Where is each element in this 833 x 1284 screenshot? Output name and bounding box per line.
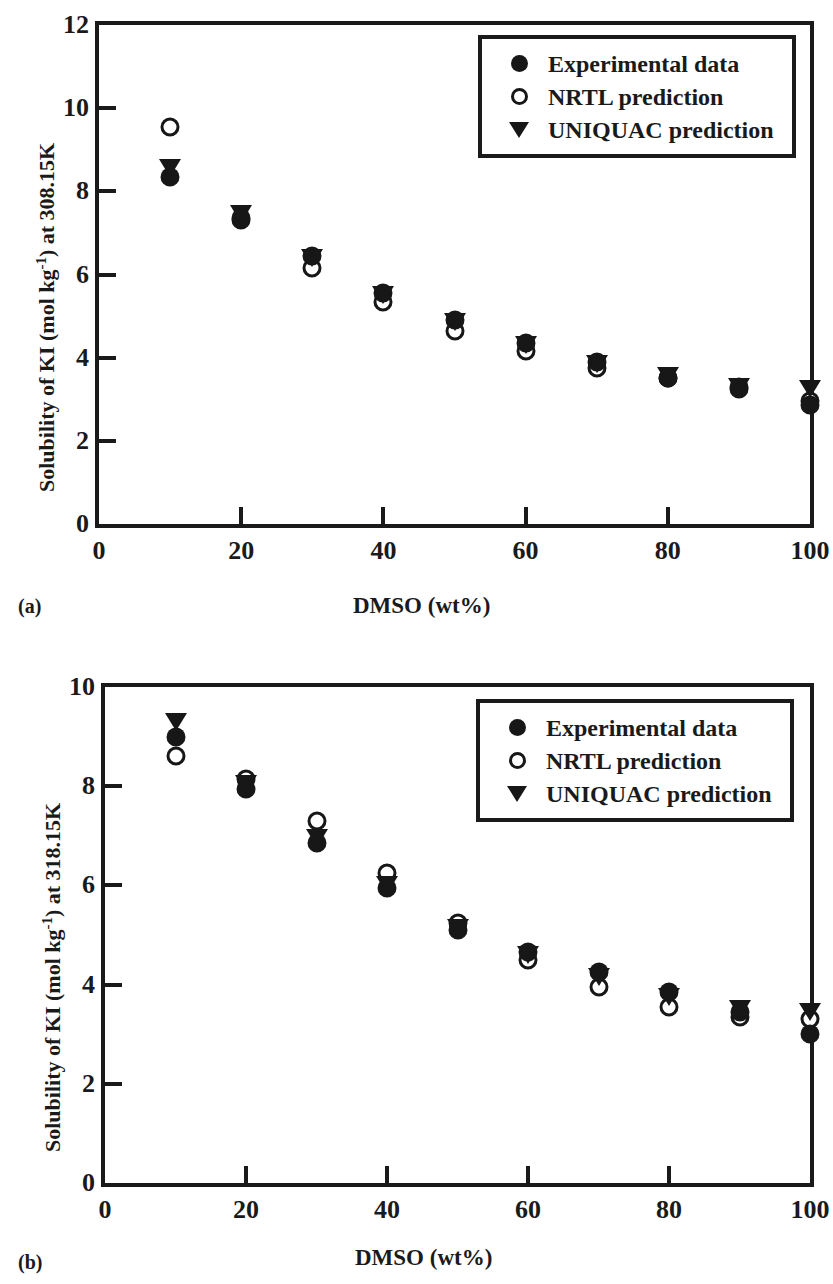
y-tick-mark	[99, 356, 116, 360]
y-tick-mark	[99, 189, 116, 193]
y-axis-title-b: Solubility of KI (mol kg-1) at 318.15K	[40, 803, 64, 1152]
y-tick-mark	[105, 784, 122, 788]
x-tick-label: 20	[228, 538, 254, 564]
y-tick-mark	[105, 1082, 122, 1086]
x-axis-title-b: DMSO (wt%)	[355, 1246, 492, 1269]
data-point-nrtl	[161, 117, 180, 136]
panel-label-b: (b)	[18, 1252, 42, 1272]
data-point-uniquac	[447, 919, 469, 937]
y-tick-mark	[99, 106, 116, 110]
y-axis-title-b-superscript: -1	[39, 917, 55, 929]
x-tick-label: 40	[370, 538, 396, 564]
legend-item: Experimental data	[494, 711, 772, 744]
y-axis-title-b-prefix: Solubility of KI (mol kg	[40, 930, 65, 1152]
legend-item: Experimental data	[496, 47, 774, 80]
x-tick-mark	[239, 507, 243, 524]
x-tick-mark	[524, 507, 528, 524]
x-tick-mark	[385, 1166, 389, 1183]
data-point-uniquac	[588, 968, 610, 986]
legend-item: UNIQUAC prediction	[496, 113, 774, 146]
x-tick-label: 80	[656, 1197, 682, 1223]
data-point-uniquac	[301, 249, 323, 267]
y-tick-label: 4	[76, 345, 89, 371]
y-tick-label: 2	[82, 1071, 95, 1097]
plot-frame-a: 024681012020406080100 Experimental data …	[95, 21, 814, 528]
y-tick-label: 0	[82, 1170, 95, 1196]
y-tick-label: 0	[76, 511, 89, 537]
legend-b: Experimental data NRTL prediction UNIQUA…	[476, 699, 794, 822]
x-tick-label: 60	[513, 538, 539, 564]
legend-item-label: NRTL prediction	[540, 749, 721, 773]
y-tick-mark	[105, 983, 122, 987]
x-tick-mark	[244, 1166, 248, 1183]
data-point-uniquac	[235, 775, 257, 793]
open-circle-icon	[494, 752, 540, 769]
y-tick-label: 4	[82, 972, 95, 998]
y-axis-title-a-suffix: ) at 308.15K	[34, 143, 59, 257]
plot-frame-b: 0246810020406080100 Experimental data NR…	[101, 683, 814, 1187]
x-axis-title-a: DMSO (wt%)	[353, 594, 490, 617]
y-tick-label: 2	[76, 428, 89, 454]
y-axis-title-b-suffix: ) at 318.15K	[40, 803, 65, 917]
triangle-down-icon	[494, 786, 540, 802]
data-point-uniquac	[657, 367, 679, 385]
data-point-nrtl	[307, 811, 326, 830]
legend-item-label: Experimental data	[542, 52, 739, 76]
data-point-uniquac	[799, 380, 821, 398]
y-tick-label: 6	[82, 872, 95, 898]
data-point-uniquac	[517, 946, 539, 964]
x-tick-mark	[666, 507, 670, 524]
data-point-uniquac	[230, 205, 252, 223]
x-tick-label: 0	[93, 538, 106, 564]
data-point-uniquac	[165, 713, 187, 731]
data-point-experimental	[801, 1025, 820, 1044]
figure-panel-b: Solubility of KI (mol kg-1) at 318.15K 0…	[0, 640, 833, 1284]
y-tick-label: 8	[76, 178, 89, 204]
x-tick-label: 40	[374, 1197, 400, 1223]
data-point-uniquac	[586, 355, 608, 373]
x-tick-label: 0	[99, 1197, 112, 1223]
data-point-uniquac	[799, 1003, 821, 1021]
data-point-uniquac	[728, 378, 750, 396]
legend-item: NRTL prediction	[496, 80, 774, 113]
x-tick-label: 60	[515, 1197, 541, 1223]
data-point-uniquac	[444, 313, 466, 331]
data-point-uniquac	[729, 1000, 751, 1018]
x-tick-label: 100	[791, 1197, 830, 1223]
filled-circle-icon	[496, 55, 542, 72]
y-tick-label: 10	[63, 95, 89, 121]
legend-item-label: Experimental data	[540, 716, 737, 740]
x-tick-mark	[526, 1166, 530, 1183]
data-point-uniquac	[159, 159, 181, 177]
data-point-uniquac	[376, 876, 398, 894]
legend-item: NRTL prediction	[494, 744, 772, 777]
x-tick-mark	[667, 1166, 671, 1183]
y-tick-mark	[99, 273, 116, 277]
x-tick-mark	[381, 507, 385, 524]
x-tick-label: 80	[655, 538, 681, 564]
legend-item-label: UNIQUAC prediction	[542, 118, 774, 142]
data-point-nrtl	[166, 747, 185, 766]
triangle-down-icon	[496, 122, 542, 138]
y-tick-mark	[99, 439, 116, 443]
data-point-uniquac	[658, 988, 680, 1006]
figure-panel-a: Solubility of KI (mol kg-1) at 308.15K 0…	[0, 0, 833, 640]
y-tick-label: 12	[63, 12, 89, 38]
y-tick-label: 8	[82, 773, 95, 799]
y-tick-label: 6	[76, 262, 89, 288]
data-point-experimental	[801, 396, 820, 415]
y-tick-mark	[105, 883, 122, 887]
legend-a: Experimental data NRTL prediction UNIQUA…	[478, 35, 796, 158]
legend-item-label: NRTL prediction	[542, 85, 723, 109]
data-point-uniquac	[515, 336, 537, 354]
data-point-uniquac	[306, 829, 328, 847]
panel-label-a: (a)	[18, 596, 41, 616]
data-point-uniquac	[372, 286, 394, 304]
y-axis-title-a: Solubility of KI (mol kg-1) at 308.15K	[34, 143, 58, 492]
filled-circle-icon	[494, 719, 540, 736]
y-axis-title-a-superscript: -1	[33, 257, 49, 269]
legend-item-label: UNIQUAC prediction	[540, 782, 772, 806]
y-tick-label: 10	[69, 674, 95, 700]
x-tick-label: 100	[791, 538, 830, 564]
y-axis-title-a-prefix: Solubility of KI (mol kg	[34, 270, 59, 492]
